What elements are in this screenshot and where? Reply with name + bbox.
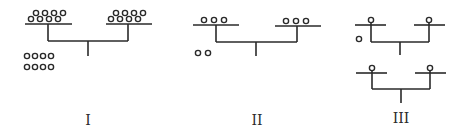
branch-circle: [426, 17, 431, 22]
figure-3: [355, 17, 446, 103]
figure-1-left-branch: [25, 10, 72, 41]
figure-2-right-branch: [275, 18, 321, 42]
loose-circles: [195, 50, 210, 55]
branch-circle: [369, 65, 374, 70]
figure-2: [193, 17, 321, 56]
circle-cluster: [28, 10, 65, 21]
circle-cluster: [201, 17, 226, 22]
figure-1-right-branch: [106, 10, 152, 41]
branch-circle: [368, 17, 373, 22]
figure-1: [24, 10, 152, 69]
figure-2-left-branch: [193, 17, 239, 42]
loose-circle: [356, 36, 361, 41]
figure-2-label: II: [251, 113, 262, 127]
figure-3-lower-tree: [356, 65, 446, 103]
figure-3-label: III: [393, 111, 410, 125]
figure-3-upper-tree: [355, 17, 445, 55]
circle-cluster: [108, 10, 145, 21]
circle-cluster: [283, 18, 308, 23]
branch-circle: [427, 65, 432, 70]
figure-1-label: I: [85, 113, 91, 127]
loose-circles: [24, 53, 53, 69]
